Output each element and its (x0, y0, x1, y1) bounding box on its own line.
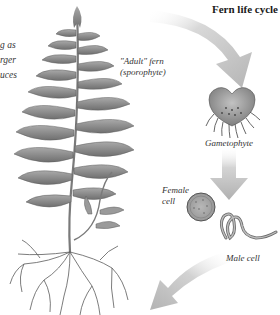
arrow-to-cells (210, 146, 248, 200)
side-caption-line: g as (0, 38, 17, 53)
sporophyte-label: "Adult" fern (sporophyte) (120, 56, 166, 78)
side-caption-line: uces (0, 68, 17, 83)
side-caption-line: rger (0, 53, 17, 68)
male-cell-illustration (221, 214, 276, 238)
arrow-to-sporophyte (150, 252, 230, 310)
sporophyte-label-line1: "Adult" fern (120, 56, 166, 67)
gametophyte-illustration (206, 88, 260, 138)
female-cell-illustration (187, 193, 215, 221)
fern-life-cycle-diagram: Fern life cycle g as rger uces "Adult" f… (0, 0, 280, 315)
gametophyte-label: Gametophyte (205, 138, 253, 149)
side-caption-fragment: g as rger uces (0, 38, 17, 83)
male-cell-label: Male cell (226, 253, 260, 264)
female-cell-label-line1: Female (162, 185, 189, 196)
diagram-title: Fern life cycle (212, 3, 278, 15)
female-cell-label: Female cell (162, 185, 189, 207)
female-cell-label-line2: cell (162, 196, 189, 207)
fern-sporophyte-illustration (10, 6, 134, 315)
diagram-graphics (0, 0, 280, 315)
sporophyte-label-line2: (sporophyte) (120, 67, 166, 78)
